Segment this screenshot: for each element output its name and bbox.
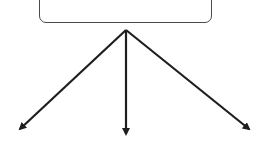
edge-right-arrow	[126, 30, 249, 129]
edge-left-arrow	[20, 30, 126, 129]
edges-layer	[0, 0, 262, 145]
